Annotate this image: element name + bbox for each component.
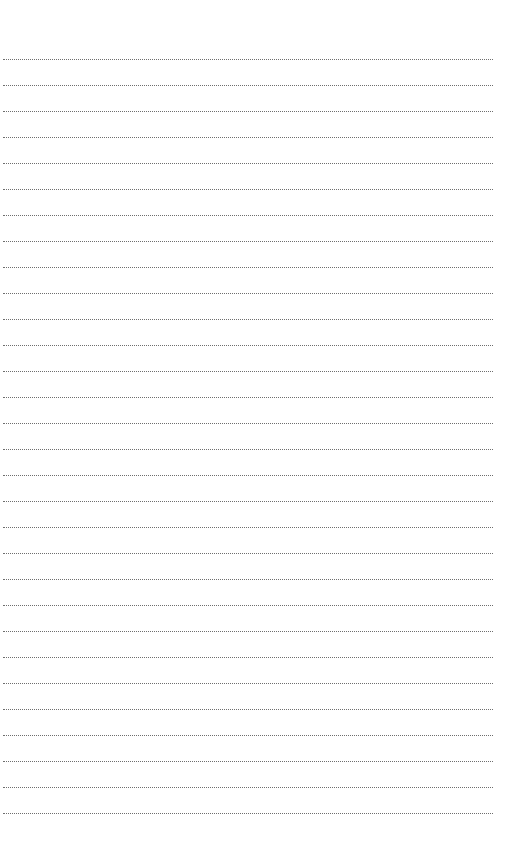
ruled-line	[3, 813, 493, 814]
ruled-line	[3, 267, 493, 268]
ruled-line	[3, 215, 493, 216]
ruled-line	[3, 371, 493, 372]
ruled-line	[3, 189, 493, 190]
ruled-line	[3, 241, 493, 242]
lined-page	[0, 0, 522, 864]
ruled-line	[3, 137, 493, 138]
ruled-line	[3, 683, 493, 684]
ruled-line	[3, 501, 493, 502]
ruled-line	[3, 631, 493, 632]
ruled-line	[3, 527, 493, 528]
ruled-line	[3, 605, 493, 606]
ruled-line	[3, 787, 493, 788]
ruled-line	[3, 59, 493, 60]
ruled-line	[3, 475, 493, 476]
ruled-line	[3, 345, 493, 346]
ruled-line	[3, 449, 493, 450]
ruled-line	[3, 397, 493, 398]
ruled-line	[3, 85, 493, 86]
ruled-line	[3, 553, 493, 554]
ruled-line	[3, 319, 493, 320]
ruled-line	[3, 735, 493, 736]
ruled-line	[3, 423, 493, 424]
ruled-line	[3, 761, 493, 762]
ruled-line	[3, 163, 493, 164]
ruled-line	[3, 709, 493, 710]
ruled-line	[3, 657, 493, 658]
ruled-line	[3, 293, 493, 294]
ruled-line	[3, 111, 493, 112]
ruled-line	[3, 579, 493, 580]
